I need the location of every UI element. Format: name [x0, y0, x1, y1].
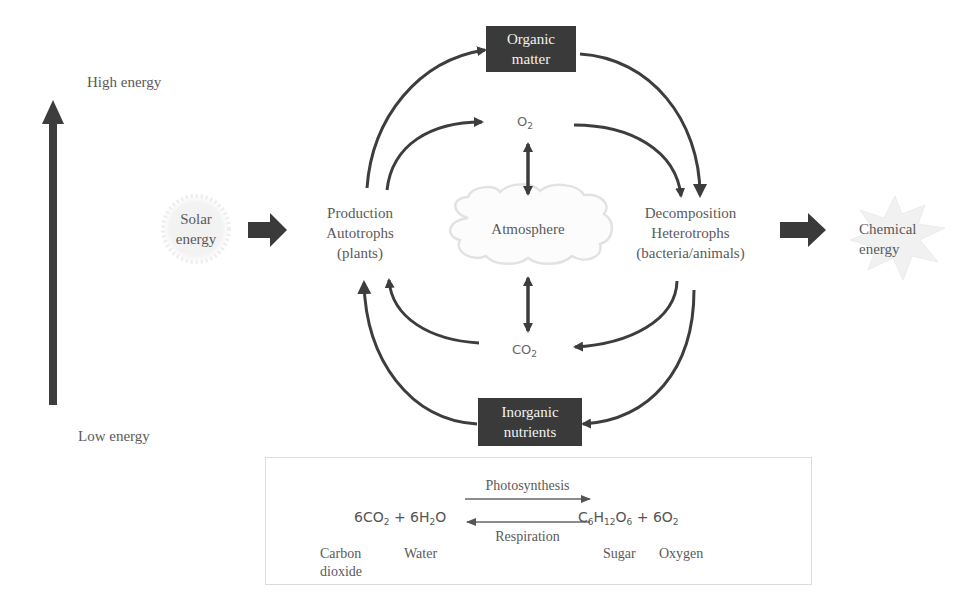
energy-axis-arrow — [42, 100, 64, 405]
arrow-decomposition-to-co2 — [575, 281, 677, 347]
arrow-decomposition-to-inorganic — [583, 290, 694, 424]
o2-label: O2 — [517, 114, 533, 129]
co2-label: CO2 — [512, 342, 537, 357]
chemical-output-arrow — [780, 213, 826, 247]
chemical-energy-label: Chemical energy — [859, 219, 916, 259]
arrow-production-to-o2 — [387, 122, 482, 190]
arrow-organic-to-decomposition — [580, 54, 700, 195]
sugar-name: Sugar — [603, 545, 636, 563]
arrow-inorganic-to-production — [364, 283, 477, 424]
water-name: Water — [404, 545, 437, 563]
oxygen-name: Oxygen — [659, 545, 703, 563]
equation-reactants: 6CO2 + 6H2O — [354, 509, 446, 525]
inorganic-nutrients-box: Inorganic nutrients — [478, 398, 582, 446]
photosynthesis-label: Photosynthesis — [465, 476, 590, 496]
organic-matter-box: Organic matter — [486, 26, 576, 72]
carbon-dioxide-name: Carbon dioxide — [320, 545, 362, 581]
solar-energy-label: Solar energy — [156, 209, 236, 249]
equation-products: C6H12O6 + 6O2 — [578, 509, 679, 525]
arrow-production-to-organic — [367, 50, 485, 188]
high-energy-label: High energy — [87, 72, 161, 92]
solar-input-arrow — [248, 213, 287, 247]
decomposition-heterotrophs-label: Decomposition Heterotrophs (bacteria/ani… — [618, 203, 763, 263]
arrow-o2-to-decomposition — [574, 125, 681, 196]
production-autotrophs-label: Production Autotrophs (plants) — [300, 203, 420, 263]
atmosphere-label: Atmosphere — [468, 219, 588, 239]
low-energy-label: Low energy — [78, 426, 150, 446]
arrow-co2-to-production — [389, 280, 479, 343]
respiration-label: Respiration — [465, 527, 590, 547]
